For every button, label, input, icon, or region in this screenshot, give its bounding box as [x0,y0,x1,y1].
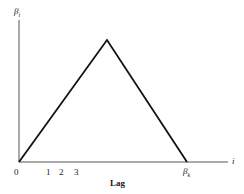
chart-canvas [0,0,244,194]
end-lag-label: βk [183,166,190,180]
x-axis-title: Lag [110,178,125,188]
y-axis-label: βi [14,6,20,20]
tick-label-2: 2 [59,167,64,177]
tick-label-0: 0 [14,167,19,177]
x-axis-symbol: i [232,156,235,166]
tick-label-3: 3 [74,167,79,177]
lag-weight-line [19,40,187,162]
tick-label-1: 1 [46,167,51,177]
